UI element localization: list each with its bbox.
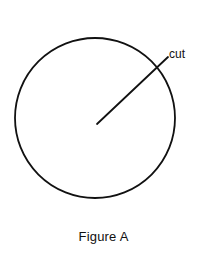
figure-a-diagram: [0, 0, 207, 268]
cut-label: cut: [169, 48, 185, 61]
figure-caption: Figure A: [0, 229, 207, 244]
figure-container: cut Figure A: [0, 0, 207, 268]
diagram-background: [0, 0, 207, 268]
